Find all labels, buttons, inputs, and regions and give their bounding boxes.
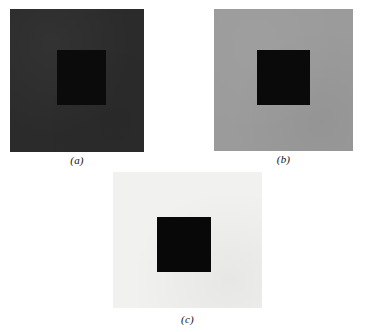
figure-canvas: (a) (b) (c) — [0, 0, 365, 332]
panel-a-inner-square — [57, 50, 106, 105]
panel-b-inner-square — [257, 50, 310, 105]
panel-a-label: (a) — [10, 154, 144, 166]
panel-a-surround — [10, 9, 144, 152]
panel-b-label: (b) — [214, 153, 353, 165]
panel-b-surround — [214, 9, 353, 151]
panel-c-inner-square — [157, 217, 211, 272]
panel-c-surround — [113, 172, 262, 308]
panel-c-label: (c) — [113, 313, 262, 325]
